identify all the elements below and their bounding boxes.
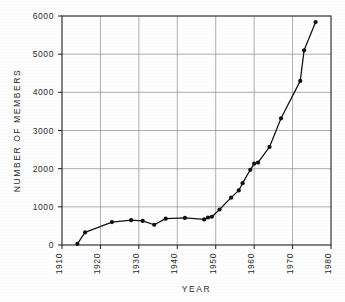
data-point [279,116,283,120]
x-tick-label: 1950 [208,253,218,274]
y-tick-label: 0 [49,240,54,250]
x-tickmarks [62,245,331,249]
data-point [129,218,133,222]
y-gridlines [62,54,331,207]
y-tick-label: 2000 [33,164,54,174]
y-tick-label: 6000 [33,11,54,21]
x-tick-label: 1920 [92,253,102,274]
data-point [267,145,271,149]
data-point [237,188,241,192]
series-line-members [77,22,315,244]
x-tick-label: 1960 [246,253,256,274]
y-tick-labels: 0100020003000400050006000 [33,11,54,250]
data-point [110,220,114,224]
line-chart: 0100020003000400050006000 19101920193019… [0,0,345,302]
data-point [302,48,306,52]
x-axis-title: YEAR [182,284,212,294]
data-point [314,20,318,24]
data-point [202,217,206,221]
data-point [217,207,221,211]
data-point [241,181,245,185]
data-point [206,215,210,219]
data-point [164,217,168,221]
data-point [83,230,87,234]
data-point [75,242,79,246]
data-point [248,168,252,172]
y-tick-label: 5000 [33,49,54,59]
x-tick-label: 1910 [54,253,64,274]
data-point [183,216,187,220]
data-point [252,162,256,166]
x-tick-label: 1970 [285,253,295,274]
x-tick-label: 1980 [323,253,333,274]
y-tickmarks [58,16,62,245]
y-tick-label: 4000 [33,87,54,97]
y-tick-label: 3000 [33,126,54,136]
data-point [298,79,302,83]
data-point [152,223,156,227]
data-point [229,196,233,200]
series-polyline [77,22,315,244]
y-tick-label: 1000 [33,202,54,212]
x-tick-label: 1930 [131,253,141,274]
chart-figure: 0100020003000400050006000 19101920193019… [0,0,345,302]
x-tick-labels: 19101920193019401950196019701980 [54,253,333,274]
x-tick-label: 1940 [169,253,179,274]
data-point [141,219,145,223]
data-point [256,160,260,164]
data-point [210,215,214,219]
y-axis-title: NUMBER OF MEMBERS [12,69,22,193]
